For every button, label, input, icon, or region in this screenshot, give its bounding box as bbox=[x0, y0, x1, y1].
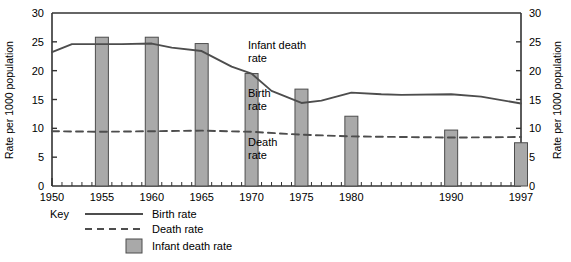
x-tick-label-1950: 1950 bbox=[40, 191, 64, 203]
legend-label-birth-rate: Birth rate bbox=[152, 208, 197, 220]
annotation-death-rate-line1: Death bbox=[248, 136, 277, 148]
y-tick-label-left-20: 20 bbox=[32, 65, 44, 77]
y-tick-label-left-25: 25 bbox=[32, 36, 44, 48]
y-axis-title-left: Rate per 1000 population bbox=[3, 41, 15, 159]
annotation-birth-rate-line1: Birth bbox=[248, 87, 271, 99]
bar-1997 bbox=[515, 143, 528, 186]
chart-svg: 302520151050 302520151050 19501955196019… bbox=[0, 0, 571, 262]
legend-swatch-infant-death-rate bbox=[126, 239, 142, 253]
bar-1960 bbox=[145, 37, 158, 186]
legend-label-death-rate: Death rate bbox=[152, 223, 203, 235]
y-tick-label-left-30: 30 bbox=[32, 7, 44, 19]
y-tick-label-right-15: 15 bbox=[529, 94, 541, 106]
x-tick-label-1960: 1960 bbox=[140, 191, 164, 203]
x-tick-label-1970: 1970 bbox=[239, 191, 263, 203]
y-tick-label-right-5: 5 bbox=[529, 151, 535, 163]
annotation-infant-death-rate-line1: Infant death bbox=[248, 39, 306, 51]
annotation-infant-death-rate-line2: rate bbox=[248, 52, 267, 64]
annotation-birth-rate-line2: rate bbox=[248, 100, 267, 112]
x-tick-label-1997: 1997 bbox=[509, 191, 533, 203]
legend-key-label: Key bbox=[50, 208, 69, 220]
bar-1965 bbox=[195, 44, 208, 186]
chart-figure: 302520151050 302520151050 19501955196019… bbox=[0, 0, 571, 262]
bar-1980 bbox=[345, 116, 358, 186]
y-tick-label-left-15: 15 bbox=[32, 94, 44, 106]
y-tick-label-right-10: 10 bbox=[529, 122, 541, 134]
x-tick-label-1990: 1990 bbox=[439, 191, 463, 203]
y-axis-title-right: Rate per 1000 population bbox=[551, 41, 563, 159]
y-tick-label-right-30: 30 bbox=[529, 7, 541, 19]
x-tick-label-1980: 1980 bbox=[339, 191, 363, 203]
y-tick-label-right-20: 20 bbox=[529, 65, 541, 77]
y-tick-label-right-25: 25 bbox=[529, 36, 541, 48]
y-tick-label-left-10: 10 bbox=[32, 122, 44, 134]
x-tick-label-1975: 1975 bbox=[289, 191, 313, 203]
legend-label-infant-death-rate: Infant death rate bbox=[152, 240, 232, 252]
y-tick-label-left-5: 5 bbox=[38, 151, 44, 163]
x-tick-label-1965: 1965 bbox=[189, 191, 213, 203]
x-tick-label-1955: 1955 bbox=[90, 191, 114, 203]
bar-1955 bbox=[95, 37, 108, 186]
annotation-death-rate-line2: rate bbox=[248, 149, 267, 161]
